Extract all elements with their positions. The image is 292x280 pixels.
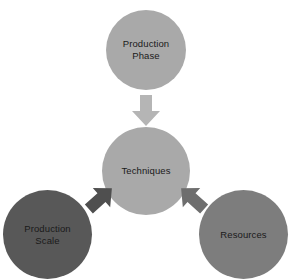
node-production-phase-label: Production Phase — [123, 38, 169, 62]
node-techniques[interactable]: Techniques — [102, 127, 190, 215]
node-production-phase[interactable]: Production Phase — [106, 10, 186, 90]
node-production-scale-label: Production Scale — [24, 223, 70, 247]
diagram-canvas: Production Phase Techniques Production S… — [0, 0, 292, 280]
node-resources[interactable]: Resources — [199, 190, 288, 279]
node-techniques-label: Techniques — [121, 165, 170, 177]
arrow-phase-to-techniques — [129, 95, 163, 127]
node-production-scale[interactable]: Production Scale — [3, 190, 92, 279]
down-arrow-icon — [132, 95, 160, 126]
node-resources-label: Resources — [220, 229, 266, 241]
